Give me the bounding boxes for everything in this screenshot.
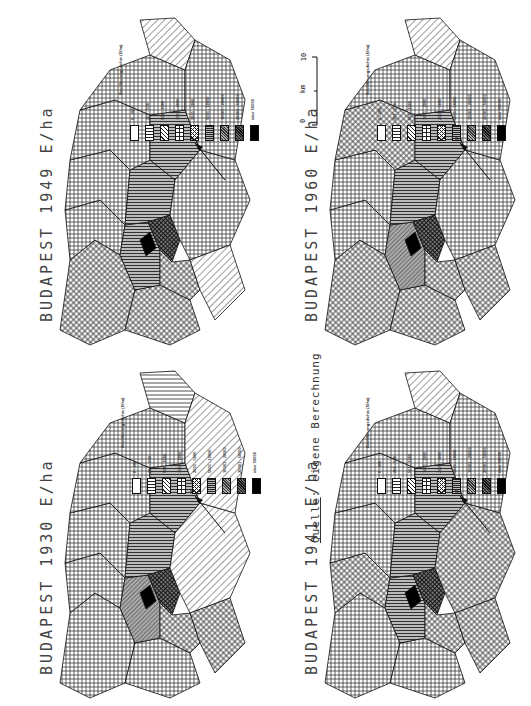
legend-item: 2001 - 5000 xyxy=(437,478,446,496)
scale-tick-10: 10 xyxy=(300,53,308,61)
legend-item: 1001 - 2000 xyxy=(175,125,184,143)
legend-label: 501 - 1000 xyxy=(407,101,412,120)
svg-text:N: N xyxy=(190,135,194,142)
legend-swatch-diagonal-lines xyxy=(162,478,171,494)
legend-item: 201 - 500 xyxy=(147,478,156,496)
legend-label: 2001 - 5000 xyxy=(190,99,195,120)
legend-swatch-solid-black xyxy=(252,478,261,494)
legend-label: 201 - 500 xyxy=(147,456,152,473)
legend-header: Bevölkerungsdichte (E/ha) xyxy=(365,398,370,448)
legend-swatch-horizontal-lines xyxy=(145,125,154,141)
legend-swatch-solid-black xyxy=(250,125,259,141)
legend-label: über 50000 xyxy=(250,99,255,120)
legend-swatch-empty xyxy=(132,478,141,494)
legend-label: 501 - 1000 xyxy=(162,454,167,473)
legend-label: 20001 - 50000 xyxy=(237,447,242,473)
legend-label: über 50000 xyxy=(497,452,502,473)
legend-header: Bevölkerungsdichte (E/ha) xyxy=(365,45,370,95)
legend-header: Bevölkerungsdichte (E/ha) xyxy=(118,45,123,95)
legend-label: 5001 - 10000 xyxy=(205,96,210,120)
legend-label: 1001 - 2000 xyxy=(175,99,180,120)
legend-swatch-horizontal-lines xyxy=(147,478,156,494)
legend-item: über 50000 xyxy=(252,478,261,496)
legend-label: 20001 - 50000 xyxy=(482,94,487,120)
legend-label: 0 - 200 xyxy=(377,108,382,120)
legend-swatch-dark-crosshatch xyxy=(235,125,244,141)
legend-label: 2001 - 5000 xyxy=(437,99,442,120)
legend-swatch-diagonal-crosshatch xyxy=(437,478,446,494)
svg-text:N: N xyxy=(455,135,459,142)
legend-item: 501 - 1000 xyxy=(160,125,169,143)
legend-swatch-horizontal-lines xyxy=(392,125,401,141)
svg-text:N: N xyxy=(455,488,459,495)
legend-item: 501 - 1000 xyxy=(407,125,416,143)
legend-swatch-solid-black xyxy=(497,478,506,494)
legend-swatch-empty xyxy=(377,125,386,141)
legend-label: 5001 - 10000 xyxy=(452,96,457,120)
legend-swatch-solid-black xyxy=(497,125,506,141)
legend-item: 20001 - 50000 xyxy=(235,125,244,143)
scale-tick-0: 0 xyxy=(299,119,307,123)
legend-swatch-grid xyxy=(175,125,184,141)
legend-label: 10001 - 20000 xyxy=(220,94,225,120)
legend-label: 10001 - 20000 xyxy=(467,447,472,473)
legend-label: 1001 - 2000 xyxy=(422,99,427,120)
legend-item: über 50000 xyxy=(497,478,506,496)
legend-label: 10001 - 20000 xyxy=(222,447,227,473)
legend-swatch-diagonal-lines xyxy=(407,125,416,141)
legend-item: 1001 - 2000 xyxy=(422,478,431,496)
legend-swatch-diagonal-lines xyxy=(160,125,169,141)
legend-swatch-grid xyxy=(422,478,431,494)
legend-label: 20001 - 50000 xyxy=(482,447,487,473)
legend-item: 2001 - 5000 xyxy=(437,125,446,143)
legend-item: 501 - 1000 xyxy=(162,478,171,496)
legend-label: 0 - 200 xyxy=(132,461,137,473)
legend-item: 0 - 200 xyxy=(132,478,141,496)
legend-label: 20001 - 50000 xyxy=(235,94,240,120)
legend-item: über 50000 xyxy=(497,125,506,143)
legend-header: Bevölkerungsdichte (E/ha) xyxy=(120,398,125,448)
legend-label: 2001 - 5000 xyxy=(437,452,442,473)
legend-swatch-grid xyxy=(177,478,186,494)
legend-item: 201 - 500 xyxy=(145,125,154,143)
legend-item: 0 - 200 xyxy=(377,125,386,143)
legend-swatch-horizontal-lines xyxy=(392,478,401,494)
legend-label: 1001 - 2000 xyxy=(422,452,427,473)
legend-label: 1001 - 2000 xyxy=(177,452,182,473)
legend-item: 501 - 1000 xyxy=(407,478,416,496)
legend-item: 1001 - 2000 xyxy=(422,125,431,143)
legend-swatch-diagonal-lines xyxy=(407,478,416,494)
legend-item: 201 - 500 xyxy=(392,478,401,496)
legend-label: 0 - 200 xyxy=(377,461,382,473)
legend-item: 201 - 500 xyxy=(392,125,401,143)
legend-swatch-grid xyxy=(422,125,431,141)
legend-swatch-empty xyxy=(377,478,386,494)
legend-label: 501 - 1000 xyxy=(160,101,165,120)
scale-bar: 0 km 10 xyxy=(303,55,323,127)
scale-unit: km xyxy=(299,85,307,93)
legend-swatch-diagonal-crosshatch xyxy=(437,125,446,141)
svg-text:N: N xyxy=(190,488,194,495)
legend-label: 5001 - 10000 xyxy=(207,449,212,473)
legend-label: über 50000 xyxy=(497,99,502,120)
legend-label: 201 - 500 xyxy=(392,456,397,473)
legend-label: 2001 - 5000 xyxy=(192,452,197,473)
legend-label: 0 - 200 xyxy=(130,108,135,120)
legend-item: 0 - 200 xyxy=(130,125,139,143)
legend-item: 20001 - 50000 xyxy=(237,478,246,496)
legend-item: 1001 - 2000 xyxy=(177,478,186,496)
legend-swatch-empty xyxy=(130,125,139,141)
legend-label: 10001 - 20000 xyxy=(467,94,472,120)
legend-item: über 50000 xyxy=(250,125,259,143)
legend-label: 5001 - 10000 xyxy=(452,449,457,473)
legend-label: 501 - 1000 xyxy=(407,454,412,473)
legend-item: 0 - 200 xyxy=(377,478,386,496)
legend-label: über 50000 xyxy=(252,452,257,473)
legend-label: 201 - 500 xyxy=(145,103,150,120)
legend-label: 201 - 500 xyxy=(392,103,397,120)
legend-swatch-dark-crosshatch xyxy=(237,478,246,494)
